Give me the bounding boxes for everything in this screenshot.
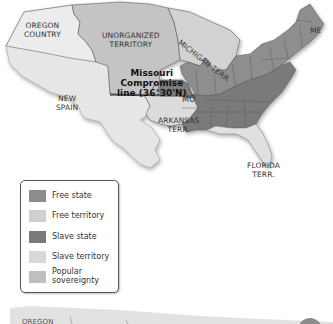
legend-label: Popular sovereignty [52, 268, 99, 285]
new-spain-label: NEW SPAIN [56, 94, 78, 112]
oregon-line1: OREGON [24, 21, 61, 30]
map-legend: Free state Free territory Slave state Sl… [20, 180, 119, 293]
florida-territory-region [206, 124, 272, 166]
florida-territory-label: FLORIDA TERR. [247, 161, 280, 179]
arkansas-line1: ARKANSAS [158, 116, 199, 125]
oregon-country-label: OREGON COUNTRY [24, 21, 61, 39]
oregon-line2: COUNTRY [24, 30, 61, 39]
maine-label: ME [310, 26, 321, 35]
second-map-partial [10, 306, 333, 324]
missouri-label: MO [182, 95, 195, 104]
compromise-line3: line (36°30'N) [117, 88, 187, 98]
legend-item-free-state: Free state [29, 190, 92, 202]
slave-territory-swatch [29, 251, 46, 263]
florida-line2: TERR. [247, 170, 280, 179]
legend-label: Free state [52, 192, 92, 201]
free-state-swatch [29, 190, 46, 202]
second-map-oregon-label: OREGON [22, 318, 54, 324]
florida-line1: FLORIDA [247, 161, 280, 170]
missouri-compromise-map: OREGON COUNTRY UNORGANIZED TERRITORY MIC… [0, 0, 333, 324]
popular-sovereignty-swatch [29, 271, 46, 283]
compromise-line2: Compromise [117, 78, 187, 88]
legend-label: Slave territory [52, 253, 109, 262]
missouri-compromise-label: Missouri Compromise line (36°30'N) [117, 68, 187, 98]
legend-label: Free territory [52, 212, 104, 221]
arkansas-line2: TERR. [158, 125, 199, 134]
legend-label-line2: sovereignty [52, 277, 99, 286]
unorganized-line2: TERRITORY [102, 40, 160, 49]
unorganized-territory-label: UNORGANIZED TERRITORY [102, 31, 160, 49]
legend-item-slave-state: Slave state [29, 231, 97, 243]
legend-item-free-territory: Free territory [29, 210, 104, 222]
unorganized-line1: UNORGANIZED [102, 31, 160, 40]
legend-item-slave-territory: Slave territory [29, 251, 109, 263]
slave-state-swatch [29, 231, 46, 243]
arkansas-territory-label: ARKANSAS TERR. [158, 116, 199, 134]
free-territory-swatch [29, 210, 46, 222]
compromise-line1: Missouri [117, 68, 187, 78]
new-spain-line2: SPAIN [56, 103, 78, 112]
new-spain-line1: NEW [56, 94, 78, 103]
legend-label: Slave state [52, 233, 97, 242]
legend-item-popular-sovereignty: Popular sovereignty [29, 268, 99, 285]
